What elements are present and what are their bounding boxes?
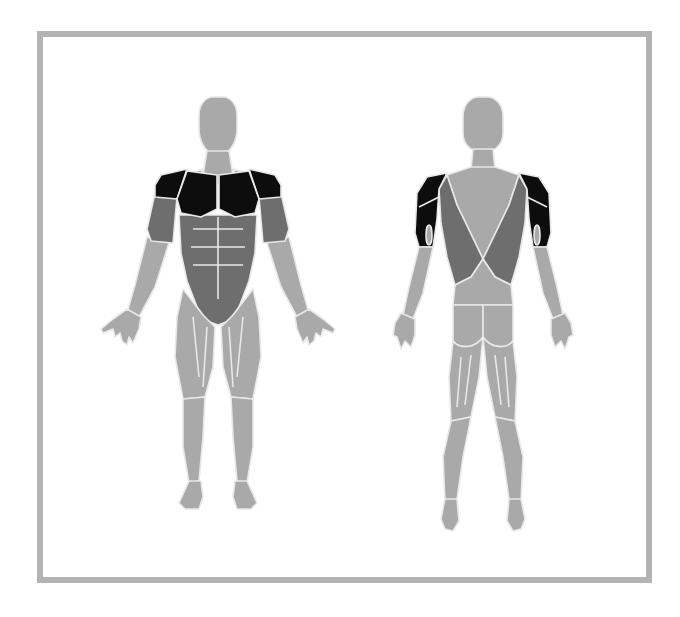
back-right-forearm xyxy=(533,247,563,319)
back-right-glute xyxy=(483,305,513,347)
back-right-hand xyxy=(551,313,573,349)
back-body-figure: Back view xyxy=(43,37,646,577)
back-right-calf xyxy=(495,417,523,501)
back-left-forearm xyxy=(403,247,433,319)
back-head xyxy=(463,97,503,151)
back-left-glute xyxy=(453,305,483,347)
diagram-frame: Primary muscles Secondary muscles Not ta… xyxy=(37,31,652,583)
back-left-calf xyxy=(443,417,471,501)
back-neck xyxy=(471,149,495,169)
back-right-thigh xyxy=(483,337,517,421)
back-left-foot xyxy=(441,499,459,531)
back-left-thigh xyxy=(449,337,483,421)
back-right-foot xyxy=(507,499,525,531)
back-left-hand xyxy=(393,313,415,349)
